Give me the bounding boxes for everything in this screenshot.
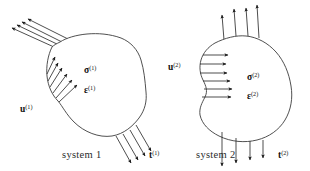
system-2-group: u(2) σ(2) ε(2) t(2) system 2 bbox=[168, 5, 292, 166]
system-1-displacement-arrow-1 bbox=[28, 19, 70, 40]
system-1-body-outline bbox=[47, 34, 147, 137]
system-2-traction-arrow-top-1 bbox=[222, 15, 224, 40]
system-1-traction-arrow-1 bbox=[116, 136, 131, 163]
system-2-displacement-label: u(2) bbox=[168, 61, 181, 72]
system-1-group: u(1) σ(1) ε(1) t(1) system 1 bbox=[12, 19, 159, 163]
system-2-traction-arrow-top-2 bbox=[234, 9, 236, 36]
diagram-canvas: u(1) σ(1) ε(1) t(1) system 1 u(2) σ(2) ε… bbox=[0, 0, 310, 171]
system-2-traction-label: t(2) bbox=[278, 149, 288, 160]
system-1-displacement-arrow-2 bbox=[22, 22, 64, 43]
figure-root: u(1) σ(1) ε(1) t(1) system 1 u(2) σ(2) ε… bbox=[0, 0, 310, 171]
system-1-displacement-label: u(1) bbox=[20, 103, 33, 114]
system-1-traction-label: t(1) bbox=[149, 149, 159, 160]
system-2-caption: system 2 bbox=[196, 149, 235, 160]
system-2-traction-arrow-top-3 bbox=[246, 8, 248, 36]
system-1-traction-arrow-3 bbox=[130, 130, 145, 156]
system-1-traction-arrow-4 bbox=[136, 125, 151, 151]
system-2-top-arrows bbox=[222, 5, 259, 40]
system-1-displacement-arrow-3 bbox=[17, 25, 59, 45]
system-2-traction-arrow-top-4 bbox=[257, 5, 259, 38]
system-1-traction-arrow-2 bbox=[123, 134, 138, 160]
system-1-displacement-arrow-4 bbox=[12, 28, 54, 47]
system-1-caption: system 1 bbox=[62, 149, 101, 160]
